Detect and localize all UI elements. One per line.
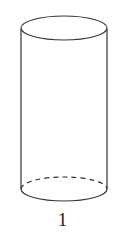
cylinder-top-ellipse (21, 16, 107, 40)
cylinder-bottom-front-arc (21, 189, 107, 201)
figure-label: 1 (0, 210, 121, 230)
cylinder-bottom-back-arc-dashed (21, 177, 107, 189)
